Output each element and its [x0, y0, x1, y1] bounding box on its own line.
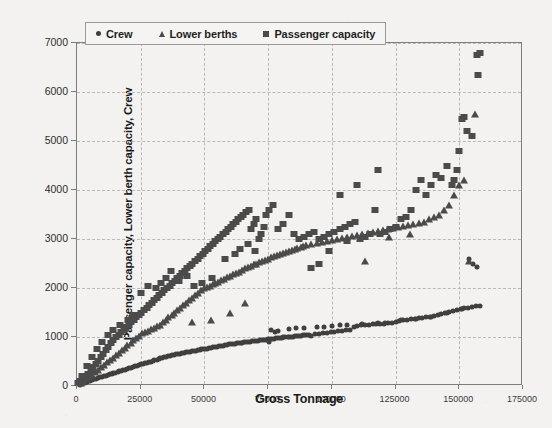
- x-tick-mark: [458, 385, 459, 389]
- data-point-square: [372, 207, 379, 213]
- data-point-square: [145, 283, 152, 289]
- y-tick-label: 1000: [45, 330, 68, 342]
- gridline-horizontal: [77, 141, 521, 142]
- x-tick-mark: [395, 385, 396, 389]
- data-point-square: [221, 256, 228, 262]
- data-point-square: [336, 192, 343, 198]
- data-point-square: [316, 261, 323, 267]
- x-tick-label: 125000: [380, 394, 410, 404]
- data-point-square: [285, 212, 292, 218]
- data-point-square: [137, 290, 144, 296]
- data-point-circle: [477, 303, 482, 308]
- x-tick-mark: [140, 385, 141, 389]
- data-point-square: [260, 224, 267, 230]
- data-point-square: [258, 231, 265, 237]
- data-point-circle: [267, 339, 272, 344]
- data-point-square: [89, 354, 96, 360]
- data-point-circle: [398, 318, 403, 323]
- data-point-square: [418, 177, 425, 183]
- data-point-square: [198, 280, 205, 286]
- legend-label-lower-berths: Lower berths: [170, 28, 238, 40]
- y-tick-label: 5000: [45, 134, 68, 146]
- circle-marker-icon: [96, 31, 101, 36]
- gridline-vertical: [396, 43, 397, 384]
- data-point-circle: [375, 321, 380, 326]
- data-point-triangle: [226, 309, 234, 316]
- data-point-circle: [413, 316, 418, 321]
- gridline-vertical: [204, 43, 205, 384]
- data-point-circle: [383, 320, 388, 325]
- y-axis-title-container: Passenger capacity, Lower berth capacity…: [8, 42, 34, 385]
- data-point-circle: [286, 327, 291, 332]
- data-point-square: [412, 187, 419, 193]
- data-point-circle: [475, 264, 480, 269]
- legend-item-passenger-capacity[interactable]: Passenger capacity: [263, 28, 375, 40]
- data-point-square: [453, 167, 460, 173]
- gridline-vertical: [459, 43, 460, 384]
- data-point-triangle: [361, 258, 369, 265]
- data-point-triangle: [465, 258, 473, 265]
- data-point-circle: [337, 322, 342, 327]
- x-tick-mark: [267, 385, 268, 389]
- data-point-triangle: [471, 111, 479, 118]
- x-tick-label: 0: [73, 394, 78, 404]
- x-tick-mark: [203, 385, 204, 389]
- data-point-square: [407, 207, 414, 213]
- data-point-square: [183, 273, 190, 279]
- y-tick-label: 3000: [45, 232, 68, 244]
- data-point-square: [280, 221, 287, 227]
- data-point-circle: [329, 323, 334, 328]
- data-point-square: [130, 312, 137, 318]
- legend-item-crew[interactable]: Crew: [96, 28, 133, 40]
- data-point-triangle: [445, 201, 453, 208]
- data-point-circle: [459, 306, 464, 311]
- data-point-square: [438, 175, 445, 181]
- data-point-triangle: [188, 319, 196, 326]
- data-point-square: [392, 224, 399, 230]
- data-point-circle: [322, 324, 327, 329]
- x-tick-mark: [522, 385, 523, 389]
- x-tick-mark: [331, 385, 332, 389]
- x-tick-label: 150000: [443, 394, 473, 404]
- data-point-square: [237, 246, 244, 252]
- data-point-circle: [429, 314, 434, 319]
- plot-area: [76, 42, 522, 385]
- gridline-horizontal: [77, 288, 521, 289]
- data-point-square: [456, 148, 463, 154]
- data-point-square: [326, 248, 333, 254]
- scatter-chart-figure: Passenger capacity, Lower berth capacity…: [0, 0, 552, 428]
- data-point-circle: [294, 326, 299, 331]
- data-point-square: [252, 248, 259, 254]
- data-point-square: [367, 231, 374, 237]
- data-point-square: [428, 182, 435, 188]
- data-point-triangle: [460, 177, 468, 184]
- legend-label-passenger-capacity: Passenger capacity: [274, 28, 375, 40]
- data-point-square: [84, 363, 91, 369]
- data-point-square: [270, 202, 277, 208]
- data-point-square: [402, 214, 409, 220]
- legend-item-lower-berths[interactable]: Lower berths: [159, 28, 238, 40]
- data-point-circle: [444, 310, 449, 315]
- y-tick-label: 7000: [45, 36, 68, 48]
- data-point-square: [351, 219, 358, 225]
- x-tick-label: 25000: [127, 394, 152, 404]
- data-point-square: [354, 182, 361, 188]
- data-point-triangle: [406, 231, 414, 238]
- data-point-circle: [345, 322, 350, 327]
- legend-label-crew: Crew: [106, 28, 133, 40]
- x-axis-title: Gross Tonnage: [255, 392, 343, 406]
- data-point-square: [469, 133, 476, 139]
- data-point-triangle: [450, 191, 458, 198]
- data-point-square: [311, 229, 318, 235]
- data-point-square: [461, 114, 468, 120]
- data-point-square: [191, 283, 198, 289]
- y-tick-label: 2000: [45, 281, 68, 293]
- data-point-square: [308, 265, 315, 271]
- data-point-square: [344, 238, 351, 244]
- data-point-square: [253, 216, 260, 222]
- data-point-circle: [276, 329, 281, 334]
- data-point-square: [475, 72, 482, 78]
- data-point-square: [168, 268, 175, 274]
- y-tick-label: 4000: [45, 183, 68, 195]
- data-point-square: [209, 275, 216, 281]
